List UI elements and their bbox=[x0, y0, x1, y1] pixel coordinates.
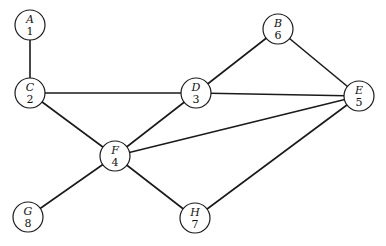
edges bbox=[28, 25, 359, 218]
node-b: B6 bbox=[263, 14, 293, 44]
edge-b-e bbox=[278, 29, 359, 96]
node-number: 2 bbox=[27, 93, 34, 106]
node-number: 1 bbox=[27, 25, 34, 38]
edge-f-e bbox=[115, 96, 359, 156]
edge-f-g bbox=[28, 156, 115, 217]
edge-d-e bbox=[196, 93, 359, 96]
node-number: 3 bbox=[193, 93, 200, 106]
node-a: A1 bbox=[15, 10, 45, 40]
node-number: 5 bbox=[356, 96, 363, 109]
edge-d-b bbox=[196, 29, 278, 93]
node-number: 4 bbox=[112, 156, 119, 169]
node-number: 8 bbox=[25, 217, 32, 230]
graph-diagram: A1C2D3F4E5B6H7G8 bbox=[0, 0, 386, 246]
node-number: 6 bbox=[275, 29, 282, 42]
node-h: H7 bbox=[180, 203, 210, 233]
node-f: F4 bbox=[100, 141, 130, 171]
edge-h-e bbox=[195, 96, 359, 218]
edge-c-f bbox=[30, 93, 115, 156]
node-number: 7 bbox=[192, 218, 199, 231]
node-d: D3 bbox=[181, 78, 211, 108]
node-e: E5 bbox=[344, 81, 374, 111]
node-g: G8 bbox=[13, 202, 43, 232]
node-c: C2 bbox=[15, 78, 45, 108]
